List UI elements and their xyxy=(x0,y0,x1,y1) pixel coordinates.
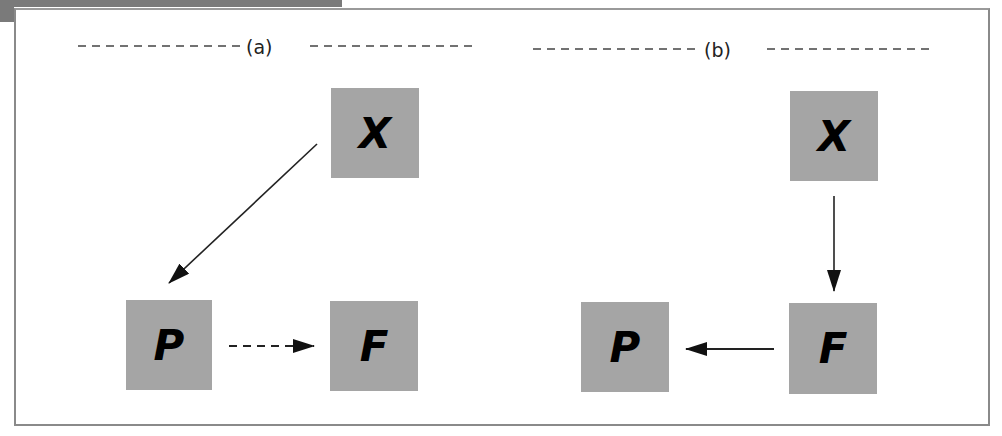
node-label: P xyxy=(154,321,185,370)
panel-a-node-p: P xyxy=(126,300,212,390)
panel-b-node-p: P xyxy=(581,302,669,392)
node-label: X xyxy=(359,109,391,158)
panel-a-node-x: X xyxy=(331,88,419,178)
panel-a-node-f: F xyxy=(330,301,418,391)
panel-a-label: (a) xyxy=(246,36,272,58)
node-label: F xyxy=(819,324,848,373)
node-label: P xyxy=(610,323,641,372)
node-label: F xyxy=(360,322,389,371)
arrow-a-x-to-p xyxy=(169,144,317,283)
panel-b-node-x: X xyxy=(790,91,878,181)
node-label: X xyxy=(818,112,850,161)
panel-b-node-f: F xyxy=(789,303,877,394)
panel-b-label: (b) xyxy=(704,39,731,61)
